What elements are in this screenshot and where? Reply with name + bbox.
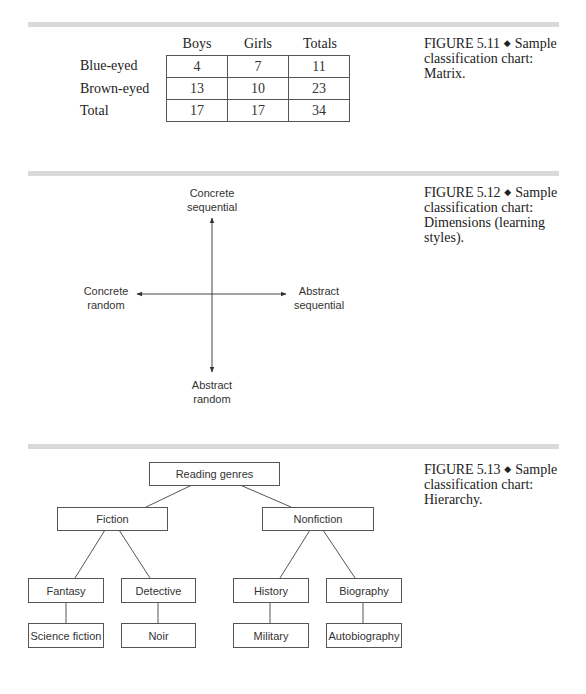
- axis-label-line: random: [61, 298, 151, 312]
- node-science-fiction: Science fiction: [28, 623, 104, 648]
- node-nonfiction: Nonfiction: [262, 507, 374, 531]
- caption-text: classification chart:: [424, 477, 574, 492]
- axis-label-top: Concrete sequential: [167, 186, 257, 214]
- axis-label-right: Abstract sequential: [274, 284, 364, 312]
- hierarchy-connectors: [66, 485, 363, 623]
- caption-text: Sample: [515, 185, 557, 200]
- bullet-icon: ◆: [500, 464, 515, 474]
- figure-caption: FIGURE 5.13◆Sample classification chart:…: [424, 462, 574, 507]
- node-autobiography: Autobiography: [326, 623, 402, 648]
- axis-label-line: Abstract: [167, 378, 257, 392]
- node-noir: Noir: [121, 623, 196, 648]
- bullet-icon: ◆: [500, 187, 515, 197]
- figure-caption: FIGURE 5.12◆Sample classification chart:…: [424, 185, 574, 245]
- node-detective: Detective: [121, 578, 196, 603]
- caption-text: classification chart:: [424, 200, 574, 215]
- axis-label-line: Concrete: [61, 284, 151, 298]
- axis-label-bottom: Abstract random: [167, 378, 257, 406]
- node-history: History: [233, 578, 309, 603]
- axis-label-line: random: [167, 392, 257, 406]
- node-root: Reading genres: [149, 462, 280, 486]
- axis-label-line: Concrete: [167, 186, 257, 200]
- caption-text: Hierarchy.: [424, 492, 574, 507]
- caption-text: styles).: [424, 230, 574, 245]
- axis-label-line: Abstract: [274, 284, 364, 298]
- axis-label-line: sequential: [274, 298, 364, 312]
- caption-text: Dimensions (learning: [424, 215, 574, 230]
- caption-text: Sample: [515, 462, 557, 477]
- axis-label-line: sequential: [167, 200, 257, 214]
- node-military: Military: [233, 623, 309, 648]
- axis-label-left: Concrete random: [61, 284, 151, 312]
- figure-number: FIGURE 5.12: [424, 185, 500, 200]
- figure-number: FIGURE 5.13: [424, 462, 500, 477]
- node-biography: Biography: [326, 578, 402, 603]
- node-fiction: Fiction: [57, 507, 168, 531]
- node-fantasy: Fantasy: [28, 578, 104, 603]
